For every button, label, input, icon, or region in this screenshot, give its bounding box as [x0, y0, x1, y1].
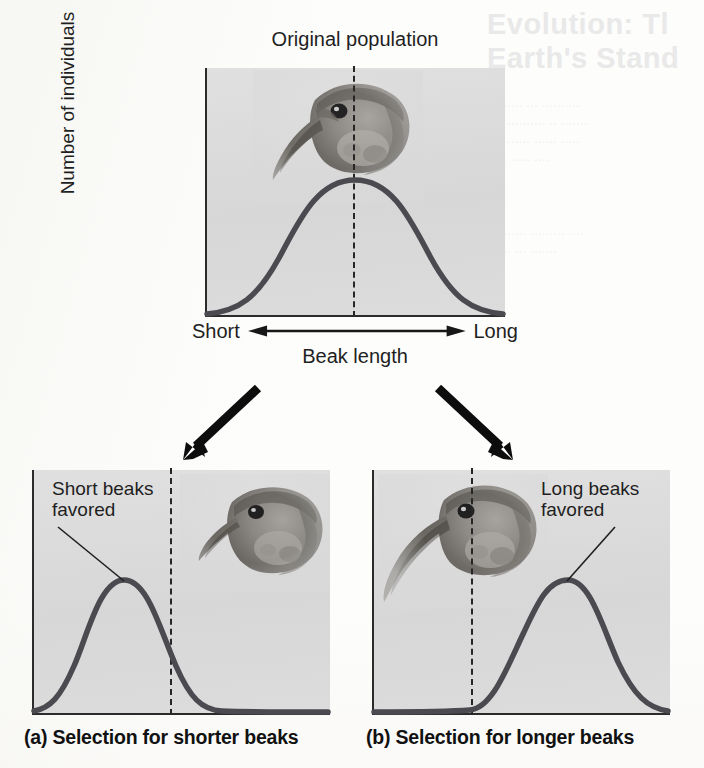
- plot-area-original-population: [205, 68, 505, 317]
- annotation-long-beaks-favored: Long beaks favored: [541, 478, 639, 521]
- arrow-down-left-icon: [183, 388, 258, 460]
- y-axis-label: Number of individuals: [57, 0, 79, 223]
- leader-line-icon-a: [54, 525, 144, 585]
- arrow-down-right-icon: [438, 388, 513, 460]
- caption-panel-b: (b) Selection for longer beaks: [366, 726, 634, 749]
- x-axis-tick-long: Long: [474, 320, 519, 343]
- x-axis-tick-row: Short Long: [192, 318, 518, 344]
- annotation-b-line2: favored: [541, 499, 639, 520]
- double-headed-arrow-icon: [248, 324, 466, 338]
- distribution-curve: [205, 68, 505, 317]
- annotation-b-line1: Long beaks: [541, 478, 639, 499]
- diverging-arrows-group: [0, 380, 704, 470]
- chart-title-original-population: Original population: [205, 28, 505, 51]
- chart-original-population: Original population Number of individual…: [0, 0, 704, 380]
- leader-line-icon-b: [545, 525, 635, 585]
- x-axis-tick-short: Short: [192, 320, 240, 343]
- caption-panel-a: (a) Selection for shorter beaks: [24, 726, 298, 749]
- annotation-a-line1: Short beaks: [52, 478, 153, 499]
- annotation-a-line2: favored: [52, 499, 153, 520]
- x-axis-label: Beak length: [205, 345, 505, 368]
- annotation-short-beaks-favored: Short beaks favored: [52, 478, 153, 521]
